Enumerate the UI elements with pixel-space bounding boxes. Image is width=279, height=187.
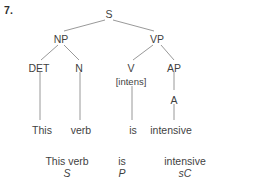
- tree-node-a: A: [170, 95, 177, 106]
- edge-s-vp: [113, 20, 154, 31]
- tree-edges: [0, 0, 279, 187]
- tree-node-v-feature: [intens]: [116, 76, 147, 87]
- tree-node-v: V: [127, 63, 134, 74]
- tree-node-ap: AP: [167, 63, 181, 74]
- analysis-function-label: P: [118, 167, 126, 179]
- terminal-this: This: [32, 125, 52, 136]
- item-number: 7.: [4, 4, 13, 16]
- edge-np-det: [41, 45, 58, 60]
- analysis-column-subject: This verb S: [45, 155, 88, 179]
- syntax-tree-figure: 7. S NP VP DET N V AP [intens] A This ve…: [0, 0, 279, 187]
- terminal-intensive: intensive: [150, 125, 191, 136]
- terminal-verb: verb: [71, 125, 91, 136]
- analysis-function-label: sC: [164, 167, 205, 179]
- tree-node-det: DET: [29, 63, 50, 74]
- analysis-phrase: intensive: [164, 155, 205, 167]
- edge-vp-ap: [161, 45, 174, 60]
- tree-node-s: S: [105, 9, 112, 20]
- analysis-column-predicator: is P: [118, 155, 126, 179]
- tree-node-vp: VP: [150, 34, 164, 45]
- analysis-function-label: S: [45, 167, 88, 179]
- edge-np-n: [64, 45, 79, 60]
- analysis-column-subject-complement: intensive sC: [164, 155, 205, 179]
- tree-node-n: N: [75, 63, 83, 74]
- tree-node-np: NP: [54, 34, 69, 45]
- analysis-phrase: is: [118, 155, 126, 167]
- analysis-phrase: This verb: [45, 155, 88, 167]
- terminal-is: is: [129, 125, 137, 136]
- edge-vp-v: [133, 45, 153, 60]
- edge-s-np: [64, 20, 105, 31]
